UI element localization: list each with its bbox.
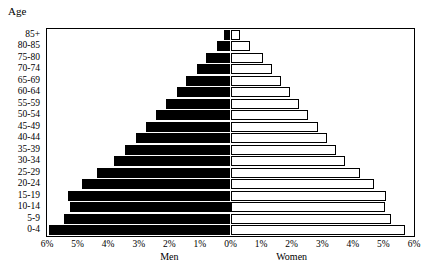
bar-women-50-54 [231, 110, 309, 120]
x-tick-2: 4% [102, 239, 115, 250]
age-label-75-80: 75-80 [18, 52, 40, 62]
age-label-35-39: 35-39 [18, 144, 40, 154]
bar-women-45-49 [231, 122, 318, 132]
bar-women-40-44 [231, 133, 327, 143]
bar-row [47, 133, 414, 143]
age-label-60-64: 60-64 [18, 86, 40, 96]
age-label-65-69: 65-69 [18, 75, 40, 85]
age-label-15-19: 15-19 [18, 190, 40, 200]
x-tick-7: 1% [255, 239, 268, 250]
age-label-20-24: 20-24 [18, 178, 40, 188]
x-tick-0: 6% [41, 239, 54, 250]
bar-men-65-69 [186, 76, 230, 86]
bar-men-30-34 [114, 156, 230, 166]
bar-women-55-59 [231, 99, 300, 109]
age-label-10-14: 10-14 [18, 201, 40, 211]
bar-row [47, 87, 414, 97]
x-tick-11: 5% [377, 239, 390, 250]
bar-row [47, 179, 414, 189]
age-label-45-49: 45-49 [18, 121, 40, 131]
bar-women-10-14 [231, 202, 385, 212]
bar-row [47, 168, 414, 178]
x-tick-10: 4% [346, 239, 359, 250]
bar-women-0-4 [231, 225, 405, 235]
bar-men-70-74 [197, 64, 231, 74]
bar-row [47, 145, 414, 155]
age-group-labels: 0-45-910-1415-1920-2425-2930-3435-3940-4… [0, 28, 43, 237]
bar-women-80-85 [231, 41, 251, 51]
population-pyramid-chart: Age 0-45-910-1415-1920-2425-2930-3435-39… [0, 0, 438, 270]
age-label-80-85: 80-85 [18, 40, 40, 50]
bar-row [47, 122, 414, 132]
bar-row [47, 225, 414, 235]
bar-row [47, 110, 414, 120]
bar-women-35-39 [231, 145, 337, 155]
series-caption-women: Women [276, 251, 307, 263]
bar-women-75-80 [231, 53, 263, 63]
age-axis-caption: Age [8, 5, 26, 17]
age-label-55-59: 55-59 [18, 98, 40, 108]
bar-women-70-74 [231, 64, 272, 74]
x-tick-6: 0% [224, 239, 237, 250]
bar-women-60-64 [231, 87, 291, 97]
x-tick-3: 3% [132, 239, 145, 250]
x-tick-12: 6% [408, 239, 421, 250]
bar-women-5-9 [231, 214, 392, 224]
bar-women-25-29 [231, 168, 361, 178]
bar-women-30-34 [231, 156, 346, 166]
x-axis-tick-labels: 6%5%4%3%2%1%0%1%2%3%4%5%6% [0, 239, 438, 253]
bar-men-55-59 [166, 99, 230, 109]
bar-row [47, 41, 414, 51]
bar-men-45-49 [146, 122, 230, 132]
bar-men-5-9 [64, 214, 231, 224]
bar-men-80-85 [217, 41, 231, 51]
bar-men-15-19 [68, 191, 230, 201]
series-caption-men: Men [160, 251, 178, 263]
bar-men-75-80 [206, 53, 230, 63]
plot-area [46, 28, 415, 237]
age-label-0-4: 0-4 [27, 224, 40, 234]
x-tick-5: 1% [194, 239, 207, 250]
x-tick-4: 2% [163, 239, 176, 250]
bar-women-85+ [231, 30, 240, 40]
age-label-25-29: 25-29 [18, 167, 40, 177]
x-tick-1: 5% [71, 239, 84, 250]
bar-men-10-14 [70, 202, 231, 212]
bar-row [47, 202, 414, 212]
age-label-70-74: 70-74 [18, 63, 40, 73]
age-label-40-44: 40-44 [18, 132, 40, 142]
bar-men-60-64 [177, 87, 231, 97]
bar-men-25-29 [97, 168, 230, 178]
age-label-30-34: 30-34 [18, 155, 40, 165]
bar-women-20-24 [231, 179, 375, 189]
bar-row [47, 53, 414, 63]
x-tick-8: 2% [285, 239, 298, 250]
bar-men-0-4 [49, 225, 231, 235]
age-label-50-54: 50-54 [18, 109, 40, 119]
bar-men-50-54 [156, 110, 231, 120]
bar-row [47, 64, 414, 74]
bar-row [47, 156, 414, 166]
bar-row [47, 214, 414, 224]
bar-row [47, 191, 414, 201]
bar-women-65-69 [231, 76, 281, 86]
bar-men-20-24 [82, 179, 230, 189]
bar-men-35-39 [125, 145, 231, 155]
bar-row [47, 76, 414, 86]
bar-men-40-44 [136, 133, 231, 143]
bar-women-15-19 [231, 191, 387, 201]
age-label-5-9: 5-9 [27, 213, 40, 223]
bar-row [47, 30, 414, 40]
bar-rows [47, 29, 414, 236]
bar-row [47, 99, 414, 109]
age-label-85+: 85+ [25, 29, 40, 39]
x-tick-9: 3% [316, 239, 329, 250]
